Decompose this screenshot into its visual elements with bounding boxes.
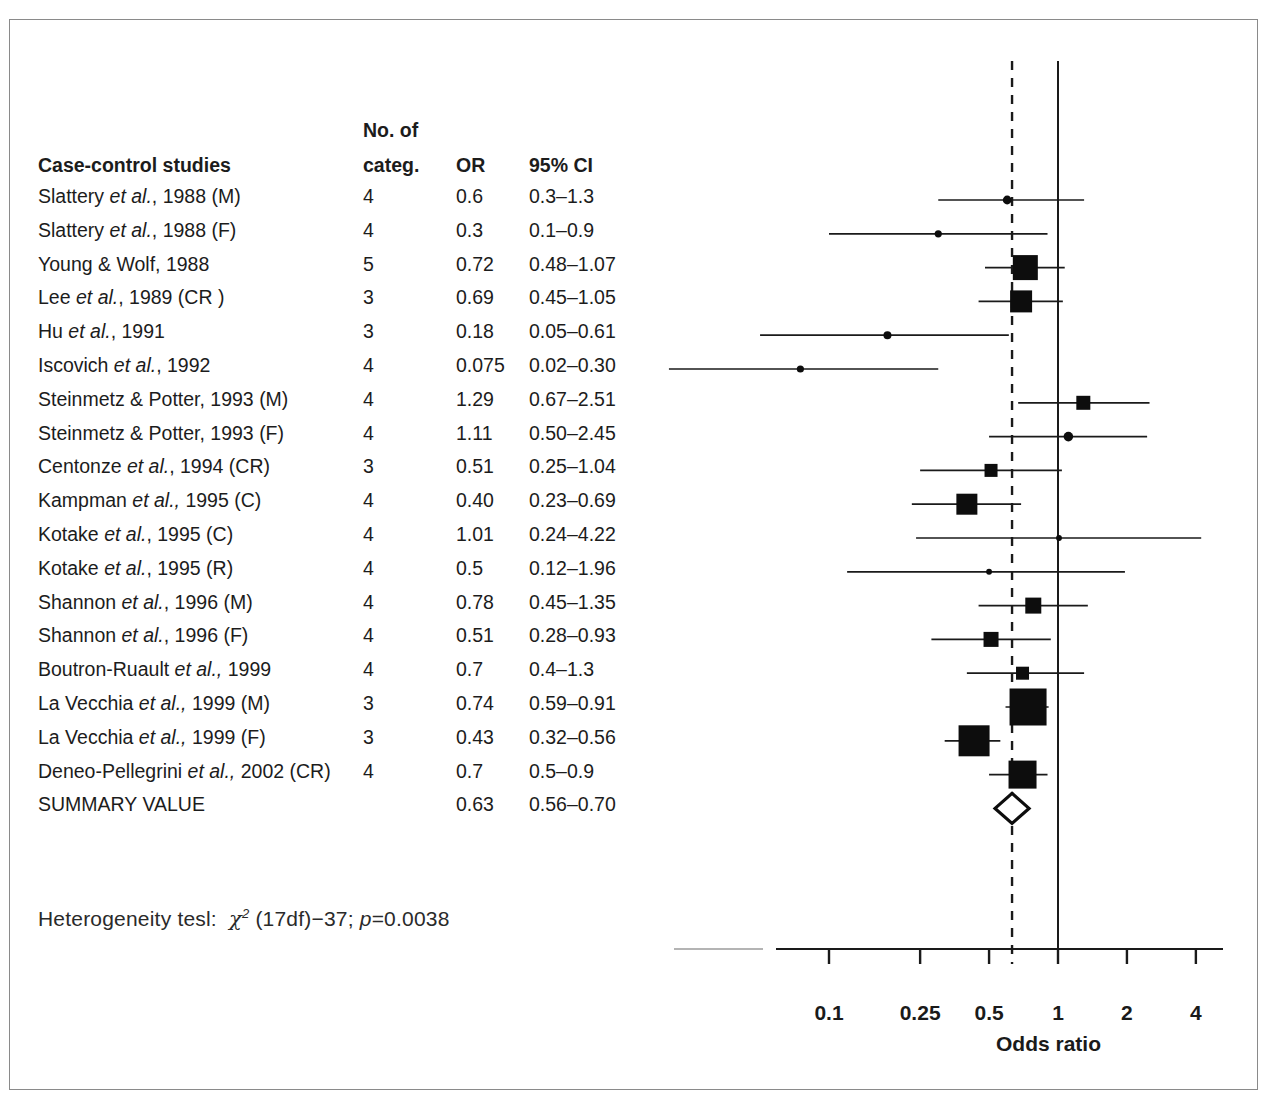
point-marker-13 [984,632,999,647]
point-marker-6 [1076,396,1090,410]
point-marker-7 [1064,432,1074,442]
point-marker-10 [1056,535,1062,541]
axis-tick-label-0.1: 0.1 [814,1001,843,1025]
axis-tick-label-0.25: 0.25 [900,1001,941,1025]
point-marker-2 [1013,255,1038,280]
point-marker-8 [985,464,998,477]
point-marker-1 [935,230,942,237]
p-value: =0.0038 [372,907,450,930]
axis-tick-label-1: 1 [1052,1001,1064,1025]
summary-diamond-marker [995,793,1029,823]
heterogeneity-test-text: Heterogeneity tesl: χ2 (17df)−37; p=0.00… [38,906,450,931]
heterogeneity-statistic: (17df)−37; [249,907,359,930]
axis-tick-label-4: 4 [1190,1001,1202,1025]
point-marker-17 [1009,761,1037,789]
point-marker-11 [986,569,992,575]
x-axis-title: Odds ratio [996,1032,1101,1056]
chi-symbol: χ [229,907,242,931]
point-marker-9 [956,494,977,515]
point-marker-5 [797,365,804,372]
point-marker-15 [1010,689,1047,726]
point-marker-14 [1016,667,1029,680]
point-marker-4 [883,331,891,339]
axis-tick-label-2: 2 [1121,1001,1133,1025]
point-marker-0 [1003,196,1012,205]
axis-tick-label-0.5: 0.5 [974,1001,1003,1025]
point-marker-16 [959,725,990,756]
forest-plot-figure: No. ofCase-control studiescateg.OR95% CI… [9,19,1258,1090]
point-marker-3 [1010,290,1032,312]
p-symbol: p [360,907,372,930]
heterogeneity-prefix: Heterogeneity tesl: [38,907,229,930]
point-marker-12 [1025,598,1041,614]
